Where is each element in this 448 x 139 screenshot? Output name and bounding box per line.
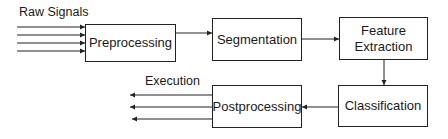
node-postprocessing: Postprocessing: [212, 85, 302, 128]
node-segmentation: Segmentation: [212, 18, 302, 61]
node-label: Preprocessing: [89, 35, 172, 51]
node-label: Classification: [345, 98, 422, 114]
node-label-line1: Feature: [361, 23, 406, 39]
raw-signals-label: Raw Signals: [19, 5, 88, 19]
node-label: Segmentation: [217, 32, 297, 48]
execution-label: Execution: [145, 74, 200, 88]
node-feature-extraction: Feature Extraction: [339, 17, 428, 60]
node-classification: Classification: [338, 85, 428, 127]
node-label: Postprocessing: [213, 99, 302, 115]
node-preprocessing: Preprocessing: [85, 24, 176, 62]
node-label-line2: Extraction: [355, 39, 413, 55]
